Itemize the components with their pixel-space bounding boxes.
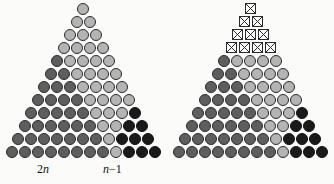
disc-mid: [84, 146, 97, 159]
crossed-box-icon: [251, 16, 264, 29]
disc-glyph-light: [84, 42, 96, 54]
disc-glyph-mid: [186, 120, 198, 132]
disc-glyph-light: [231, 55, 243, 67]
disc-light: [277, 68, 290, 81]
left-triangle-panel: 2n n−1: [0, 0, 167, 184]
disc-light: [110, 146, 123, 159]
disc-dark: [142, 133, 155, 146]
disc-glyph-light: [277, 68, 289, 80]
disc-glyph-mid: [218, 81, 230, 93]
crossed-box-glyph: [252, 16, 263, 27]
disc-glyph-mid: [212, 120, 224, 132]
crossed-box-icon: [257, 29, 270, 42]
disc-mid: [38, 133, 51, 146]
disc-light: [84, 16, 97, 29]
disc-glyph-mid: [173, 146, 185, 158]
disc-glyph-mid: [51, 81, 63, 93]
disc-mid: [58, 146, 71, 159]
disc-light: [103, 55, 116, 68]
disc-glyph-light: [238, 68, 250, 80]
disc-row-9: [25, 107, 142, 120]
disc-glyph-mid: [238, 120, 250, 132]
disc-glyph-light: [64, 55, 76, 67]
disc-mid: [179, 133, 192, 146]
disc-glyph-mid: [205, 133, 217, 145]
disc-light: [270, 107, 283, 120]
disc-dark: [316, 146, 329, 159]
disc-mid: [238, 94, 251, 107]
disc-glyph-mid: [225, 120, 237, 132]
disc-glyph-light: [270, 81, 282, 93]
disc-glyph-light: [270, 133, 282, 145]
disc-glyph-mid: [38, 107, 50, 119]
disc-glyph-light: [270, 55, 282, 67]
disc-light: [97, 120, 110, 133]
disc-glyph-light: [90, 55, 102, 67]
disc-row-6: [45, 68, 123, 81]
disc-light: [231, 55, 244, 68]
disc-glyph-dark: [123, 146, 135, 158]
disc-glyph-mid: [45, 94, 57, 106]
disc-glyph-light: [251, 68, 263, 80]
disc-row-1: [244, 3, 257, 16]
disc-light: [103, 81, 116, 94]
disc-light: [77, 81, 90, 94]
disc-mid: [225, 68, 238, 81]
disc-glyph-light: [257, 107, 269, 119]
disc-glyph-dark: [296, 133, 308, 145]
disc-light: [251, 68, 264, 81]
disc-light: [90, 81, 103, 94]
disc-glyph-dark: [303, 146, 315, 158]
disc-glyph-light: [244, 55, 256, 67]
disc-light: [97, 42, 110, 55]
disc-mid: [212, 120, 225, 133]
disc-mid: [192, 107, 205, 120]
disc-light: [116, 81, 129, 94]
crossed-box-icon: [244, 3, 257, 16]
disc-mid: [6, 146, 19, 159]
disc-glyph-light: [110, 68, 122, 80]
disc-mid: [90, 133, 103, 146]
crossed-box-glyph: [245, 29, 256, 40]
disc-mid: [173, 146, 186, 159]
disc-glyph-mid: [199, 120, 211, 132]
crossed-box-icon: [238, 42, 251, 55]
disc-glyph-mid: [71, 94, 83, 106]
disc-glyph-light: [103, 133, 115, 145]
disc-mid: [77, 107, 90, 120]
crossed-box-glyph: [239, 42, 250, 53]
disc-glyph-light: [270, 107, 282, 119]
disc-light: [264, 120, 277, 133]
crossed-box-glyph: [252, 42, 263, 53]
disc-glyph-mid: [45, 146, 57, 158]
disc-mid: [199, 120, 212, 133]
disc-light: [103, 107, 116, 120]
disc-mid: [58, 94, 71, 107]
disc-glyph-mid: [77, 107, 89, 119]
disc-light: [58, 42, 71, 55]
disc-glyph-mid: [192, 133, 204, 145]
disc-glyph-dark: [309, 133, 321, 145]
disc-glyph-light: [77, 3, 89, 15]
disc-mid: [205, 107, 218, 120]
disc-glyph-dark: [316, 146, 328, 158]
disc-row-7: [38, 81, 129, 94]
disc-glyph-light: [77, 81, 89, 93]
disc-dark: [303, 146, 316, 159]
disc-glyph-mid: [212, 146, 224, 158]
disc-light: [71, 42, 84, 55]
disc-row-3: [231, 29, 270, 42]
disc-glyph-dark: [123, 120, 135, 132]
disc-glyph-mid: [199, 94, 211, 106]
disc-row-11: [179, 133, 322, 146]
crossed-box-icon: [238, 16, 251, 29]
crossed-box-glyph: [232, 29, 243, 40]
disc-glyph-light: [283, 81, 295, 93]
crossed-box-glyph: [245, 3, 256, 14]
disc-light: [77, 55, 90, 68]
disc-glyph-mid: [12, 133, 24, 145]
disc-glyph-mid: [64, 107, 76, 119]
disc-glyph-dark: [303, 120, 315, 132]
disc-glyph-light: [264, 94, 276, 106]
disc-dark: [136, 146, 149, 159]
